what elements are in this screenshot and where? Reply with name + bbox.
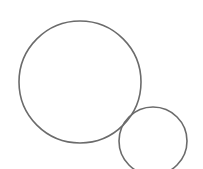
diagram-canvas xyxy=(0,0,203,169)
small-circle xyxy=(119,107,187,169)
circles-diagram xyxy=(0,0,203,169)
